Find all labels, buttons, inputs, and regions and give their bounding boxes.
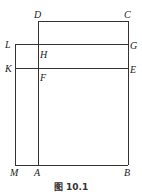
label-E: E <box>129 64 136 75</box>
geometry-figure: D C L H G K F E M A B <box>0 0 142 196</box>
label-F: F <box>39 72 47 83</box>
label-B: B <box>124 167 130 178</box>
label-L: L <box>4 39 11 50</box>
figure-caption: 图 10.1 <box>0 180 142 193</box>
label-C: C <box>124 9 131 20</box>
label-A: A <box>33 167 41 178</box>
label-H: H <box>39 49 48 60</box>
label-G: G <box>130 40 137 51</box>
label-K: K <box>4 63 13 74</box>
label-D: D <box>33 9 42 20</box>
label-M: M <box>9 167 19 178</box>
